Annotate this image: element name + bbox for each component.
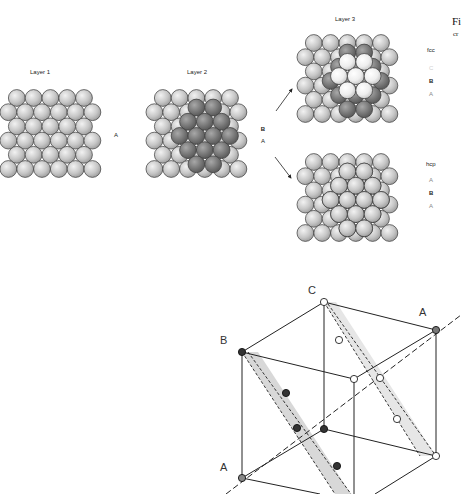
atom-b-face bbox=[293, 424, 300, 431]
layer2-stack-letter-a: A bbox=[261, 138, 265, 144]
atom-c-corner bbox=[350, 375, 357, 382]
body-diagonal-111 bbox=[226, 315, 461, 494]
sphere-layer-a bbox=[230, 161, 247, 178]
atom-c-face bbox=[376, 374, 383, 381]
fcc-letter-b: B bbox=[429, 78, 434, 84]
cube-edge bbox=[375, 456, 436, 494]
caption-fragment-line1: Fi bbox=[452, 15, 461, 27]
sphere-layer-a bbox=[381, 225, 398, 242]
sphere-layer-a bbox=[17, 161, 34, 178]
sphere-layer-a bbox=[34, 161, 51, 178]
sphere-layer-a bbox=[314, 106, 331, 123]
atom-a-corner-bottom bbox=[238, 474, 245, 481]
fcc-letter-c: C bbox=[429, 65, 434, 71]
atom-c-face bbox=[335, 336, 342, 343]
layer1-sphere-grid bbox=[0, 90, 101, 178]
cube-label-a-bottom: A bbox=[220, 461, 228, 473]
sphere-layer-a bbox=[381, 106, 398, 123]
layer2-label: Layer 2 bbox=[187, 69, 208, 75]
sphere-layer-a-top bbox=[339, 220, 356, 237]
fcc-sphere-stack bbox=[297, 35, 398, 123]
sphere-layer-a bbox=[50, 161, 67, 178]
atom-b-face bbox=[333, 462, 340, 469]
layer2-stack-letter-b: B bbox=[261, 126, 266, 132]
fcc-unit-cube: C A B A bbox=[220, 284, 461, 494]
fcc-letter-a: A bbox=[429, 91, 433, 97]
cube-label-b: B bbox=[220, 334, 227, 346]
atom-a-corner-top bbox=[432, 326, 439, 333]
cube-label-c: C bbox=[308, 284, 316, 296]
cube-label-a-top: A bbox=[419, 306, 427, 318]
sphere-layer-b bbox=[356, 101, 373, 118]
sphere-layer-a bbox=[67, 161, 84, 178]
sphere-layer-a bbox=[163, 161, 180, 178]
sphere-layer-a bbox=[146, 161, 163, 178]
sphere-layer-c bbox=[339, 82, 356, 99]
sphere-layer-a bbox=[297, 106, 314, 123]
layer3-label: Layer 3 bbox=[335, 16, 356, 22]
sphere-layer-b bbox=[339, 101, 356, 118]
hcp-title: hcp bbox=[426, 161, 436, 167]
sphere-layer-a bbox=[0, 161, 17, 178]
layer2-sphere-grid bbox=[146, 90, 247, 178]
atom-c-face bbox=[393, 415, 400, 422]
cube-edge bbox=[242, 302, 324, 352]
caption-fragment-line2: cr bbox=[453, 30, 459, 38]
hcp-letter-b: B bbox=[429, 190, 434, 196]
sphere-layer-a bbox=[297, 225, 314, 242]
sphere-layer-a-top bbox=[356, 220, 373, 237]
hcp-sphere-stack bbox=[297, 154, 398, 242]
layer1-stack-letter: A bbox=[114, 132, 118, 138]
atom-b-corner bbox=[238, 348, 245, 355]
arrow-to-fcc bbox=[276, 89, 292, 111]
sphere-layer-c bbox=[356, 82, 373, 99]
hcp-letter-a-bottom: A bbox=[429, 203, 433, 209]
hcp-letter-a-top: A bbox=[429, 177, 433, 183]
cube-edge bbox=[242, 478, 320, 494]
sphere-layer-a bbox=[314, 225, 331, 242]
sphere-layer-b bbox=[188, 156, 205, 173]
fcc-title: fcc bbox=[427, 47, 435, 53]
layer1-label: Layer 1 bbox=[30, 69, 51, 75]
atom-b-face bbox=[282, 389, 289, 396]
crystal-packing-figure: Layer 1 Layer 2 Layer 3 A B A fcc C B A … bbox=[0, 0, 461, 494]
sphere-layer-a bbox=[84, 161, 101, 178]
sphere-layer-b bbox=[205, 156, 222, 173]
atom-b-corner bbox=[320, 425, 327, 432]
atom-c-corner bbox=[432, 452, 439, 459]
arrow-to-hcp bbox=[275, 157, 291, 178]
atom-c-corner bbox=[320, 298, 327, 305]
